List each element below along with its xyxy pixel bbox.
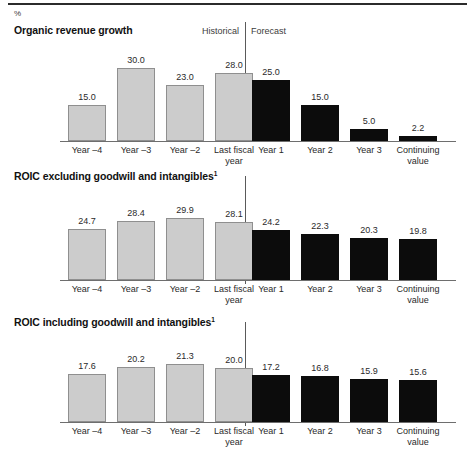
unit-label: % (14, 9, 21, 18)
bar-value-label: 17.6 (62, 361, 112, 371)
plot-area: 24.7Year –428.4Year –329.9Year –228.1Las… (0, 186, 475, 316)
bar-historical (117, 221, 155, 280)
bar-value-label: 29.9 (160, 205, 210, 215)
band-label-historical: Historical (202, 26, 239, 36)
x-tick-label: Continuing value (389, 284, 447, 305)
bar-historical (166, 85, 204, 141)
bar-value-label: 2.2 (393, 123, 443, 133)
chart-panel-roic-excluding-goodwill: ROIC excluding goodwill and intangibles1… (0, 170, 475, 316)
bar-historical (215, 222, 253, 280)
bar-value-label: 15.9 (344, 366, 394, 376)
bar-forecast (252, 80, 290, 141)
bar-value-label: 5.0 (344, 116, 394, 126)
bar-forecast (252, 230, 290, 280)
bar-value-label: 21.3 (160, 351, 210, 361)
x-axis-line (60, 422, 456, 423)
bar-forecast (350, 129, 388, 141)
bar-historical (68, 105, 106, 142)
bar-value-label: 15.0 (295, 92, 345, 102)
bar-value-label: 25.0 (246, 67, 296, 77)
bar-forecast (350, 238, 388, 280)
bar-historical (68, 229, 106, 280)
bar-historical (215, 368, 253, 422)
bar-forecast (399, 239, 437, 280)
chart-panel-roic-including-goodwill: ROIC including goodwill and intangibles1… (0, 316, 475, 450)
bar-forecast (301, 234, 339, 280)
bar-value-label: 24.2 (246, 217, 296, 227)
bar-value-label: 22.3 (295, 221, 345, 231)
x-axis-line (60, 280, 456, 281)
bar-value-label: 23.0 (160, 72, 210, 82)
x-axis-line (60, 141, 456, 142)
bar-value-label: 20.3 (344, 225, 394, 235)
bar-value-label: 20.2 (111, 354, 161, 364)
bar-historical (117, 68, 155, 141)
bar-value-label: 30.0 (111, 55, 161, 65)
bar-forecast (301, 376, 339, 422)
bar-value-label: 16.8 (295, 363, 345, 373)
bar-value-label: 28.4 (111, 208, 161, 218)
bar-value-label: 15.6 (393, 367, 443, 377)
bar-historical (215, 73, 253, 141)
band-label-forecast: Forecast (251, 26, 286, 36)
plot-area: 15.0Year –430.0Year –323.0Year –228.0Las… (0, 36, 475, 174)
panel-title-text: Organic revenue growth (14, 24, 133, 36)
panel-title-text: ROIC excluding goodwill and intangibles (14, 170, 214, 182)
top-rule-divider (8, 3, 467, 5)
bar-forecast (350, 379, 388, 422)
chart-panel-organic-revenue-growth: Organic revenue growth Historical Foreca… (0, 24, 475, 174)
bar-forecast (252, 375, 290, 422)
panel-title: Organic revenue growth (14, 24, 133, 36)
x-tick-label: Continuing value (389, 145, 447, 166)
panel-title: ROIC excluding goodwill and intangibles1 (14, 170, 217, 182)
bar-forecast (301, 105, 339, 142)
plot-area: 17.6Year –420.2Year –321.3Year –220.0Las… (0, 332, 475, 450)
bar-forecast (399, 136, 437, 141)
bar-forecast (399, 380, 437, 422)
panel-title: ROIC including goodwill and intangibles1 (14, 316, 215, 328)
bar-value-label: 15.0 (62, 92, 112, 102)
bar-historical (117, 367, 155, 422)
x-tick-label: Continuing value (389, 426, 447, 447)
bar-historical (68, 374, 106, 422)
panel-title-footnote: 1 (211, 316, 215, 323)
bar-value-label: 19.8 (393, 226, 443, 236)
bar-historical (166, 364, 204, 422)
chart-page: % Organic revenue growth Historical Fore… (0, 0, 475, 450)
panel-title-footnote: 1 (214, 170, 218, 177)
panel-title-text: ROIC including goodwill and intangibles (14, 316, 211, 328)
bar-historical (166, 218, 204, 280)
bar-value-label: 24.7 (62, 216, 112, 226)
bar-value-label: 17.2 (246, 362, 296, 372)
